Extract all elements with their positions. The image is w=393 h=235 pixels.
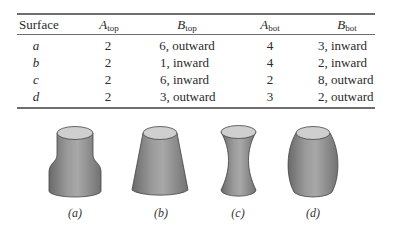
surface-d-shape — [288, 127, 338, 197]
cell-surface: b — [33, 55, 40, 70]
cell-a-bot: 4 — [267, 55, 274, 70]
surface-b-shape — [132, 127, 188, 196]
cell-b-top: 6, inward — [160, 72, 209, 87]
cell-b-top: 6, outward — [159, 38, 215, 53]
figure-label-a: (a) — [68, 206, 82, 221]
surface-a-shape — [49, 127, 101, 198]
cell-b-bot: 2, inward — [318, 55, 367, 70]
surfaces-figure — [0, 115, 393, 235]
cell-surface: c — [33, 72, 39, 87]
cell-a-bot: 4 — [267, 38, 274, 53]
header-b-bot: Bbot — [337, 17, 356, 36]
header-a-bot: Abot — [260, 17, 279, 36]
cell-b-bot: 2, outward — [318, 89, 374, 104]
figure-label-b: (b) — [154, 206, 168, 221]
cell-surface: d — [33, 89, 40, 104]
cell-b-bot: 8, outward — [318, 72, 374, 87]
cell-a-top: 2 — [105, 38, 112, 53]
cell-surface: a — [33, 38, 40, 53]
cell-a-bot: 2 — [267, 72, 274, 87]
cell-a-top: 2 — [105, 72, 112, 87]
header-surface: Surface — [19, 17, 59, 32]
figure-label-c: (c) — [231, 206, 244, 221]
cell-b-bot: 3, inward — [318, 38, 367, 53]
table-top-rule — [17, 13, 375, 15]
header-a-top: Atop — [99, 17, 118, 36]
cell-b-top: 3, outward — [160, 89, 216, 104]
table-bottom-rule — [17, 107, 375, 109]
header-b-top: Btop — [177, 17, 196, 36]
cell-a-top: 2 — [105, 89, 112, 104]
cell-a-bot: 3 — [267, 89, 274, 104]
cell-b-top: 1, inward — [160, 55, 209, 70]
figure-label-d: (d) — [306, 206, 320, 221]
cell-a-top: 2 — [105, 55, 112, 70]
surface-c-shape — [221, 126, 256, 197]
